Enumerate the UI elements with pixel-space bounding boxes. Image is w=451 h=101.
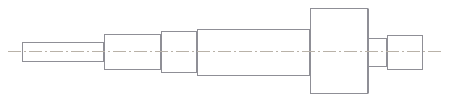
shaft-section-flange-shoulder (369, 39, 387, 67)
shaft-elevation-view (0, 0, 451, 101)
engineering-drawing-canvas (0, 0, 451, 101)
shaft-section-right-end-journal (388, 36, 423, 70)
shaft-section-main-body (198, 30, 310, 76)
shaft-section-second-step (105, 35, 161, 70)
